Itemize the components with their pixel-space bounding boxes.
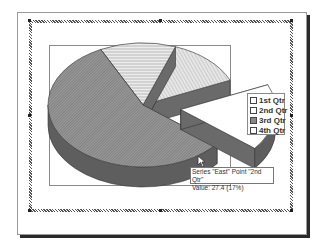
- legend-item-1st-qtr[interactable]: 1st Qtr: [250, 95, 282, 105]
- legend-item-2nd-qtr[interactable]: 2nd Qtr: [250, 105, 282, 115]
- data-point-tooltip: Series "East" Point "2nd Qtr" Value: 27.…: [190, 167, 274, 184]
- legend-label: 2nd Qtr: [259, 106, 287, 115]
- legend-label: 4th Qtr: [259, 126, 285, 135]
- legend-swatch-icon: [250, 117, 257, 124]
- legend-swatch-icon: [250, 127, 257, 134]
- legend-label: 1st Qtr: [259, 96, 285, 105]
- legend-swatch-icon: [250, 107, 257, 114]
- legend-item-4th-qtr[interactable]: 4th Qtr: [250, 125, 282, 135]
- legend-label: 3rd Qtr: [259, 116, 286, 125]
- legend-item-3rd-qtr[interactable]: 3rd Qtr: [250, 115, 282, 125]
- chart-legend[interactable]: 1st Qtr 2nd Qtr 3rd Qtr 4th Qtr: [247, 93, 285, 135]
- legend-swatch-icon: [250, 97, 257, 104]
- tooltip-value: Value: 27.4 (17%): [192, 184, 272, 192]
- tooltip-series-point: Series "East" Point "2nd Qtr": [192, 168, 272, 184]
